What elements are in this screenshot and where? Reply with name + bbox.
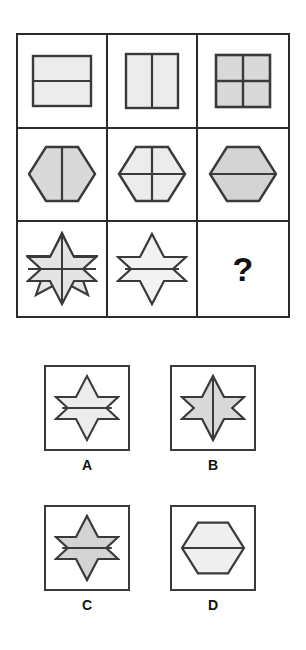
matrix-cell-r1c2: [108, 35, 198, 129]
star-cross-icon: [26, 231, 98, 307]
square-vertical-icon: [121, 50, 183, 112]
matrix-cell-r1c1: [18, 35, 108, 129]
question-mark: ?: [233, 252, 254, 286]
square-horizontal-icon: [31, 50, 93, 112]
matrix-cell-r2c1: [18, 129, 108, 223]
star-horizontal-icon: [116, 231, 188, 307]
option-d-label: D: [170, 597, 256, 613]
matrix-cell-r3c1: [18, 222, 108, 316]
star-vertical-icon: [180, 373, 246, 443]
option-b-label: B: [170, 457, 256, 473]
option-d-box[interactable]: [170, 505, 256, 591]
matrix-cell-r2c2: [108, 129, 198, 223]
square-cross-icon: [213, 51, 273, 111]
matrix-cell-r2c3: [198, 129, 288, 223]
option-b-box[interactable]: [170, 365, 256, 451]
matrix-cell-r3c2: [108, 222, 198, 316]
star-horizontal-icon: [54, 373, 120, 443]
option-c-box[interactable]: [44, 505, 130, 591]
option-d[interactable]: D: [170, 505, 256, 613]
matrix-cell-r3c3-missing: ?: [198, 222, 288, 316]
option-a[interactable]: A: [44, 365, 130, 473]
hexagon-horizontal-icon: [207, 142, 279, 206]
hexagon-cross-icon: [116, 142, 188, 206]
option-a-label: A: [44, 457, 130, 473]
hexagon-vertical-icon: [26, 142, 98, 206]
option-c[interactable]: C: [44, 505, 130, 613]
option-c-label: C: [44, 597, 130, 613]
option-a-box[interactable]: [44, 365, 130, 451]
hexagon-horizontal-icon: [179, 518, 247, 578]
matrix-cell-r1c3: [198, 35, 288, 129]
matrix-grid: ?: [16, 33, 290, 318]
puzzle-root: ? A: [0, 0, 306, 650]
option-b[interactable]: B: [170, 365, 256, 473]
star-horizontal-icon: [54, 513, 120, 583]
answer-options: A B: [0, 360, 306, 650]
